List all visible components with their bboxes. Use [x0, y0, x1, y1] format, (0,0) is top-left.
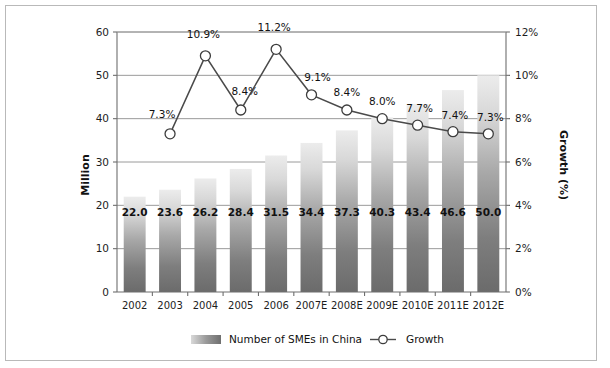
y-axis-right-tick-label: 12%: [515, 26, 538, 38]
bar-value-label: 34.4: [299, 206, 325, 218]
bar-value-label: 28.4: [228, 206, 254, 218]
y-axis-left-tick-label: 0: [102, 286, 109, 298]
growth-value-label: 8.4%: [334, 86, 361, 98]
bar-value-label: 37.3: [334, 206, 360, 218]
growth-marker: [377, 114, 387, 124]
growth-value-label: 8.4%: [231, 85, 258, 97]
y-axis-right-tick-label: 4%: [515, 199, 532, 211]
bar: [407, 104, 429, 292]
bar-value-label: 31.5: [263, 206, 289, 218]
growth-marker: [307, 90, 317, 100]
growth-marker: [271, 44, 281, 54]
bar-value-label: 23.6: [157, 206, 183, 218]
x-axis-tick-label: 2009E: [366, 300, 398, 311]
y-axis-right-tick-label: 6%: [515, 156, 532, 168]
y-axis-right-tick-label: 2%: [515, 242, 532, 254]
growth-marker: [165, 129, 175, 139]
growth-marker: [200, 51, 210, 61]
x-axis-tick-label: 2006: [263, 300, 288, 311]
x-axis-tick-label: 2002: [122, 300, 147, 311]
x-axis-tick-label: 2005: [228, 300, 253, 311]
legend-label-bars: Number of SMEs in China: [229, 333, 362, 345]
growth-marker: [342, 105, 352, 115]
chart-legend: Number of SMEs in China Growth: [191, 333, 444, 345]
bar: [230, 169, 252, 292]
y-axis-right-tick-label: 10%: [515, 69, 538, 81]
x-axis-tick-label: 2007E: [296, 300, 328, 311]
x-axis-tick-label: 2003: [157, 300, 182, 311]
y-axis-left-tick-label: 60: [96, 26, 109, 38]
growth-marker: [448, 127, 458, 137]
chart-svg: 22.023.626.228.431.534.437.340.343.446.6…: [0, 0, 610, 368]
legend-swatch-bars: [191, 335, 221, 344]
y-axis-right-tick-label: 0%: [515, 286, 532, 298]
growth-value-label: 11.2%: [257, 21, 290, 33]
x-axis-tick-label: 2012E: [472, 300, 504, 311]
bar: [265, 156, 287, 293]
bar-value-label: 40.3: [369, 206, 395, 218]
legend-label-growth: Growth: [406, 333, 444, 345]
y-axis-left-title: Million: [79, 154, 92, 195]
x-axis-tick-label: 2011E: [437, 300, 469, 311]
bar-value-label: 50.0: [475, 206, 501, 218]
growth-value-label: 8.0%: [369, 95, 396, 107]
bar: [477, 75, 499, 292]
x-axis-tick-label: 2010E: [402, 300, 434, 311]
y-axis-right-title: Growth (%): [557, 130, 570, 200]
bar: [194, 178, 216, 292]
growth-marker: [413, 120, 423, 130]
y-axis-left-tick-label: 40: [96, 112, 109, 124]
growth-value-label: 9.1%: [304, 71, 331, 83]
growth-value-label: 7.7%: [406, 102, 433, 114]
bar-value-label: 22.0: [122, 206, 148, 218]
growth-value-label: 10.9%: [187, 28, 220, 40]
bar: [371, 117, 393, 292]
growth-marker: [236, 105, 246, 115]
chart-figure: 22.023.626.228.431.534.437.340.343.446.6…: [0, 0, 610, 368]
legend-marker-growth: [379, 335, 387, 343]
y-axis-right-tick-label: 8%: [515, 112, 532, 124]
growth-value-label: 7.4%: [442, 109, 469, 121]
growth-line: [170, 49, 488, 134]
bar-value-label: 26.2: [192, 206, 218, 218]
x-axis-tick-label: 2008E: [331, 300, 363, 311]
bar-value-label: 43.4: [405, 206, 431, 218]
y-axis-left-tick-label: 50: [96, 69, 109, 81]
y-axis-left-tick-label: 10: [96, 242, 109, 254]
growth-value-label: 7.3%: [477, 111, 504, 123]
y-axis-left-tick-label: 30: [96, 156, 109, 168]
growth-marker: [483, 129, 493, 139]
growth-value-label: 7.3%: [149, 108, 176, 120]
x-axis-tick-label: 2004: [193, 300, 218, 311]
y-axis-left-tick-label: 20: [96, 199, 109, 211]
bar-value-label: 46.6: [440, 206, 466, 218]
